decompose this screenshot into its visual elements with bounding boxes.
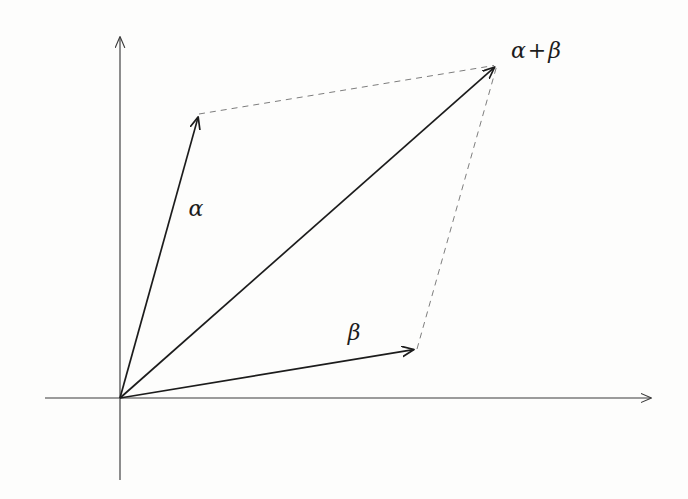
label-alpha: α: [189, 198, 204, 220]
vectors-group: [120, 67, 494, 398]
vector-alpha: [120, 117, 198, 398]
axes-group: [45, 37, 651, 480]
construction-lines-group: [199, 65, 496, 349]
label-alpha-plus-beta: α+β: [511, 40, 561, 62]
label-sum-alpha: α: [511, 38, 526, 63]
vector-addition-figure: α β α+β: [0, 0, 688, 499]
figure-canvas: [0, 0, 688, 499]
dashed-line-beta-to-sum: [417, 68, 496, 349]
label-sum-beta: β: [548, 38, 561, 63]
label-sum-operator: +: [526, 38, 548, 63]
vector-beta: [120, 350, 414, 398]
vector-alpha-plus-beta: [120, 67, 494, 398]
label-beta: β: [348, 322, 361, 344]
